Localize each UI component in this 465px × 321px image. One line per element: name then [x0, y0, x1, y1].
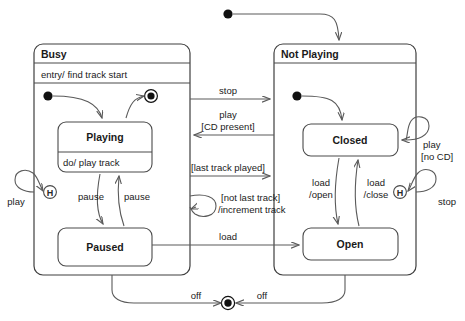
paused-label: Paused [86, 241, 123, 253]
edge-busy-self-loop [190, 195, 216, 216]
initial-state-not-playing[interactable] [292, 91, 301, 100]
label-stop: stop [219, 85, 237, 96]
not-playing-history-label: H [397, 188, 404, 198]
state-playing[interactable]: Playing do/ play track [58, 122, 152, 172]
label-pause-down: pause [78, 191, 104, 202]
label-play-nocd-guard: [no CD] [421, 151, 453, 162]
playing-activity: do/ play track [63, 157, 120, 168]
label-play-cd: play [219, 109, 237, 120]
edge-busy-self-loop-arrow [191, 207, 196, 209]
label-play-cd-guard: [CD present] [201, 121, 254, 132]
state-open[interactable]: Open [303, 228, 398, 260]
label-not-last-track: [not last track] [221, 192, 280, 203]
label-play-history: play [7, 196, 25, 207]
state-diagram-canvas: Busy entry/ find track start Playing do/… [0, 0, 465, 321]
label-play-nocd: play [423, 139, 441, 150]
initial-state-busy[interactable] [43, 91, 52, 100]
label-load-close-effect: /close [364, 189, 389, 200]
playing-label: Playing [86, 131, 123, 143]
closed-label: Closed [332, 134, 367, 146]
history-state-not-playing[interactable]: H [394, 186, 407, 199]
label-load-open-effect: /open [309, 189, 333, 200]
busy-entry-action: entry/ find track start [41, 69, 127, 80]
label-stop-history: stop [438, 196, 456, 207]
state-paused[interactable]: Paused [58, 228, 152, 266]
history-state-busy[interactable]: H [44, 186, 57, 199]
open-label: Open [337, 238, 364, 250]
label-load: load [219, 231, 237, 242]
busy-label: Busy [41, 48, 67, 60]
label-off-left: off [191, 290, 202, 301]
initial-state-top[interactable] [223, 9, 232, 18]
edge-top-initial-to-not-playing [233, 14, 339, 40]
label-pause-up: pause [124, 191, 150, 202]
not-playing-label: Not Playing [281, 48, 339, 60]
label-increment-track: /increment track [218, 204, 286, 215]
final-state-bottom[interactable] [221, 296, 234, 309]
uml-state-diagram: Busy entry/ find track start Playing do/… [0, 0, 465, 321]
edge-busy-to-final-off [112, 275, 221, 303]
final-state-busy[interactable] [145, 90, 158, 103]
label-last-track-played: [last track played] [191, 162, 265, 173]
busy-history-label: H [47, 188, 54, 198]
label-off-right: off [257, 290, 268, 301]
label-load-open: load [312, 177, 330, 188]
label-load-close: load [367, 177, 385, 188]
edge-notplaying-to-final-off [236, 275, 345, 303]
state-closed[interactable]: Closed [303, 124, 398, 156]
